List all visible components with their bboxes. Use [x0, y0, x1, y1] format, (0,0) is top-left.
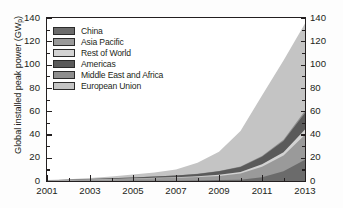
y-tick-left-20 — [47, 158, 52, 159]
y-tick-label-right-120: 120 — [310, 35, 334, 46]
legend-swatch-icon — [53, 71, 75, 79]
y-tick-label-left-60: 60 — [18, 105, 40, 116]
x-tick-2001 — [47, 175, 48, 181]
y-tick-right-140 — [301, 18, 306, 19]
y-tick-left-80 — [47, 88, 52, 89]
legend-item-americas[interactable]: Americas — [53, 59, 163, 69]
x-tick-label-2001: 2001 — [27, 185, 67, 196]
y-tick-left-40 — [47, 134, 52, 135]
x-tick-2012 — [284, 178, 285, 181]
y-tick-label-left-20: 20 — [18, 151, 40, 162]
x-tick-2007 — [176, 175, 177, 181]
x-tick-2005 — [133, 175, 134, 181]
legend-item-european-union[interactable]: European Union — [53, 81, 163, 91]
y-tick-label-left-100: 100 — [18, 58, 40, 69]
y-tick-right-50 — [302, 123, 305, 124]
y-tick-right-120 — [301, 41, 306, 42]
x-tick-2009 — [219, 175, 220, 181]
y-tick-right-70 — [302, 100, 305, 101]
x-tick-2003 — [90, 175, 91, 181]
x-tick-label-2013: 2013 — [285, 185, 325, 196]
y-tick-label-left-140: 140 — [18, 12, 40, 23]
y-tick-label-left-120: 120 — [18, 35, 40, 46]
y-tick-left-100 — [47, 65, 52, 66]
y-tick-right-80 — [301, 88, 306, 89]
x-tick-label-2007: 2007 — [156, 185, 196, 196]
legend-swatch-icon — [53, 49, 75, 57]
legend-item-asia-pacific[interactable]: Asia Pacific — [53, 37, 163, 47]
x-tick-label-2005: 2005 — [113, 185, 153, 196]
y-tick-right-40 — [301, 134, 306, 135]
legend-label: Rest of World — [81, 48, 131, 58]
y-tick-right-130 — [302, 30, 305, 31]
y-tick-label-right-80: 80 — [310, 82, 334, 93]
y-tick-left-90 — [47, 76, 50, 77]
y-tick-left-0 — [47, 181, 52, 182]
y-tick-label-right-100: 100 — [310, 58, 334, 69]
y-tick-label-right-140: 140 — [310, 12, 334, 23]
y-tick-left-70 — [47, 100, 50, 101]
legend-swatch-icon — [53, 27, 75, 35]
y-tick-right-10 — [302, 169, 305, 170]
x-tick-label-2003: 2003 — [70, 185, 110, 196]
legend-label: China — [81, 26, 103, 36]
y-tick-right-0 — [301, 181, 306, 182]
legend-item-middle-east-and-africa[interactable]: Middle East and Africa — [53, 70, 163, 80]
figure: Global installed peak power (GWp) 002020… — [0, 0, 343, 208]
x-axis-line — [46, 181, 306, 182]
legend-item-rest-of-world[interactable]: Rest of World — [53, 48, 163, 58]
y-tick-left-60 — [47, 111, 52, 112]
legend-label: Asia Pacific — [81, 37, 124, 47]
y-tick-left-30 — [47, 146, 50, 147]
x-tick-2006 — [155, 178, 156, 181]
legend-swatch-icon — [53, 82, 75, 90]
legend-label: Middle East and Africa — [81, 70, 163, 80]
legend: ChinaAsia PacificRest of WorldAmericasMi… — [53, 26, 163, 92]
x-tick-2013 — [305, 175, 306, 181]
y-tick-left-50 — [47, 123, 50, 124]
y-tick-label-left-40: 40 — [18, 128, 40, 139]
x-tick-2011 — [262, 175, 263, 181]
y-tick-right-110 — [302, 53, 305, 54]
y-tick-left-120 — [47, 41, 52, 42]
y-tick-left-110 — [47, 53, 50, 54]
legend-item-china[interactable]: China — [53, 26, 163, 36]
plot-top-border — [46, 17, 306, 18]
y-tick-left-140 — [47, 18, 52, 19]
y-tick-right-90 — [302, 76, 305, 77]
x-tick-2004 — [112, 178, 113, 181]
y-tick-label-right-60: 60 — [310, 105, 334, 116]
y-tick-right-60 — [301, 111, 306, 112]
x-tick-2002 — [69, 178, 70, 181]
y-tick-label-right-40: 40 — [310, 128, 334, 139]
y-tick-left-130 — [47, 30, 50, 31]
legend-label: Americas — [81, 59, 116, 69]
y-tick-right-20 — [301, 158, 306, 159]
x-tick-2010 — [241, 178, 242, 181]
x-tick-2008 — [198, 178, 199, 181]
legend-swatch-icon — [53, 38, 75, 46]
y-tick-right-30 — [302, 146, 305, 147]
legend-swatch-icon — [53, 60, 75, 68]
y-tick-label-right-20: 20 — [310, 151, 334, 162]
x-tick-label-2009: 2009 — [199, 185, 239, 196]
y-tick-right-100 — [301, 65, 306, 66]
legend-label: European Union — [81, 81, 141, 91]
y-tick-label-left-80: 80 — [18, 82, 40, 93]
y-tick-left-10 — [47, 169, 50, 170]
x-tick-label-2011: 2011 — [242, 185, 282, 196]
